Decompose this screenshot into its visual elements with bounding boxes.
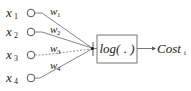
weight-w3: w 3	[50, 42, 61, 56]
weight-sub-w1: 1	[57, 11, 61, 19]
weight-w1: w 1	[50, 5, 61, 19]
input-sub-x2: 2	[14, 31, 18, 40]
input-label-x2: x	[5, 24, 12, 39]
input-x1: x 1	[5, 5, 92, 48]
output-arrow-head-icon	[152, 47, 156, 51]
edge-x1	[35, 13, 92, 48]
output-sub: i	[184, 49, 186, 57]
input-label-x4: x	[5, 70, 12, 85]
log-function-label: log( . )	[99, 41, 134, 56]
input-sub-x3: 3	[14, 54, 18, 63]
input-label-x3: x	[5, 47, 12, 62]
input-label-x1: x	[5, 5, 12, 20]
weight-w4: w 4	[50, 59, 61, 73]
input-node-x3	[27, 51, 35, 59]
output-label: Cost	[157, 41, 181, 56]
edge-x4	[35, 49, 92, 78]
input-x4: x 4	[5, 49, 92, 86]
input-x2: x 2	[5, 24, 92, 48]
input-node-x4	[27, 74, 35, 82]
edge-x2	[35, 32, 92, 48]
input-node-x2	[27, 28, 35, 36]
weight-sub-w4: 4	[57, 65, 61, 73]
input-sub-x4: 4	[14, 77, 18, 86]
input-node-x1	[27, 9, 35, 17]
input-sub-x1: 1	[14, 12, 18, 21]
weight-sub-w2: 2	[57, 29, 61, 37]
perceptron-diagram: x 1 x 2 x 3 x 4 w 1 w 2 w 3 w 4	[0, 0, 191, 91]
weight-sub-w3: 3	[57, 48, 61, 56]
input-x3: x 3	[5, 47, 92, 63]
